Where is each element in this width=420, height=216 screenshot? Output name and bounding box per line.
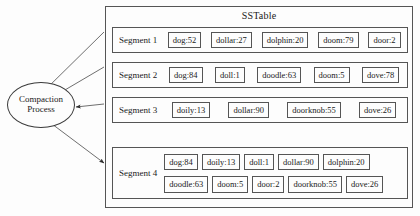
segment-entries: doily:13 dollar:90 doorknob:55 dove:26 — [161, 102, 407, 119]
entry-cell: dollar:90 — [278, 154, 319, 171]
segment-entries: dog:84 doll:1 doodle:63 doom:5 dove:78 — [161, 67, 407, 84]
entry-cell: doom:5 — [212, 176, 248, 193]
segment-row[interactable]: Segment 1 dog:52 dollar:27 dolphin:20 do… — [112, 27, 408, 53]
sstable-container: SSTable Segment 1 dog:52 dollar:27 dolph… — [105, 6, 413, 208]
segment-row[interactable]: Segment 4 dog:84 doily:13 doll:1 dollar:… — [112, 147, 408, 199]
entry-cell: door:2 — [368, 32, 400, 49]
edge-segment3-to-compaction — [76, 104, 104, 107]
entry-cell: doily:13 — [172, 102, 210, 119]
diagram-canvas: Compaction Process SSTable Segment 1 dog… — [0, 0, 420, 216]
entry-cell: dove:78 — [362, 67, 399, 84]
entry-cell: doodle:63 — [164, 176, 208, 193]
entry-cell: doorknob:55 — [287, 102, 340, 119]
entry-cell: doom:5 — [314, 67, 350, 84]
entry-cell: dolphin:20 — [262, 32, 309, 49]
segment-row[interactable]: Segment 2 dog:84 doll:1 doodle:63 doom:5… — [112, 62, 408, 88]
compaction-process-node[interactable]: Compaction Process — [7, 82, 75, 128]
segment-label: Segment 4 — [117, 168, 161, 178]
compaction-process-label-line2: Process — [27, 105, 55, 115]
entry-cell: door:2 — [252, 176, 284, 193]
entry-cell: doodle:63 — [257, 67, 301, 84]
entry-cell: doll:1 — [244, 154, 274, 171]
entry-cell: doily:13 — [202, 154, 240, 171]
entry-cell: dog:52 — [168, 32, 202, 49]
segment-label: Segment 2 — [117, 70, 161, 80]
entry-cell: doll:1 — [215, 67, 245, 84]
entry-cell: dove:26 — [359, 102, 396, 119]
entry-cell: dog:84 — [164, 154, 198, 171]
edge-compaction-to-segment4 — [52, 124, 104, 163]
segment-entries: dog:52 dollar:27 dolphin:20 doom:79 door… — [161, 32, 407, 49]
entry-cell: dog:84 — [169, 67, 203, 84]
entry-cell: dollar:90 — [228, 102, 269, 119]
entry-cell: dollar:27 — [211, 32, 252, 49]
entry-cell: doorknob:55 — [288, 176, 341, 193]
segment-row[interactable]: Segment 3 doily:13 dollar:90 doorknob:55… — [112, 97, 408, 123]
entry-cell: dove:26 — [346, 176, 383, 193]
segment-entries: dog:84 doily:13 doll:1 dollar:90 dolphin… — [161, 152, 407, 195]
entry-cell: dolphin:20 — [323, 154, 370, 171]
entry-cell: doom:79 — [318, 32, 358, 49]
segment-label: Segment 3 — [117, 105, 161, 115]
segment-label: Segment 1 — [117, 35, 161, 45]
sstable-title: SSTable — [106, 10, 412, 21]
